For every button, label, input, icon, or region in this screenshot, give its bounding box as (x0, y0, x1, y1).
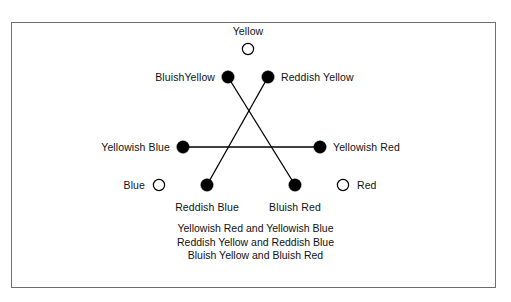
label-reddish-yellow: Reddish Yellow (281, 72, 354, 83)
label-yellow: Yellow (233, 26, 264, 37)
label-yellowish-red: Yellowish Red (333, 142, 400, 153)
node-group (153, 43, 348, 191)
label-bluish-red: Bluish Red (269, 202, 321, 213)
node-reddish-blue (201, 179, 213, 191)
node-blue (153, 179, 164, 190)
figure-container: YellowBluishYellowReddish YellowYellowis… (0, 0, 511, 302)
label-reddish-blue: Reddish Blue (175, 202, 239, 213)
edge-group (183, 77, 320, 185)
node-bluish-yellow (222, 71, 234, 83)
label-red: Red (357, 180, 377, 191)
label-bluish-yellow: BluishYellow (155, 72, 215, 83)
node-yellowish-blue (177, 141, 189, 153)
node-bluish-red (289, 179, 301, 191)
node-yellow (242, 43, 253, 54)
node-red (337, 179, 348, 190)
caption-line-1: Yellowish Red and Yellowish Blue (177, 222, 334, 236)
node-reddish-yellow (262, 71, 274, 83)
figure-caption: Yellowish Red and Yellowish Blue Reddish… (177, 222, 334, 263)
caption-line-2: Reddish Yellow and Reddish Blue (177, 236, 334, 250)
label-yellowish-blue: Yellowish Blue (101, 142, 170, 153)
node-yellowish-red (314, 141, 326, 153)
label-blue: Blue (124, 180, 145, 191)
caption-line-3: Bluish Yellow and Bluish Red (177, 249, 334, 263)
